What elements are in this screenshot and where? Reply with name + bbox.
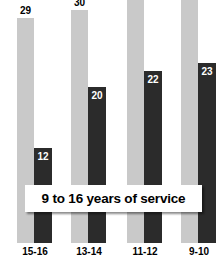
x-tick-label-13-14: 13-14 — [67, 245, 111, 258]
dark-bar[interactable] — [198, 63, 216, 243]
callout-text: 9 to 16 years of service — [42, 191, 186, 206]
callout-banner: 9 to 16 years of service — [25, 185, 202, 212]
x-tick-label-11-12: 11-12 — [123, 245, 167, 258]
dark-bar[interactable] — [88, 87, 106, 243]
light-bar-value-label: 29 — [17, 5, 34, 16]
dark-bar-value-label: 12 — [34, 151, 52, 162]
dark-bar-value-label: 22 — [144, 74, 162, 85]
dark-bar[interactable] — [144, 71, 162, 243]
x-tick-label-9-10: 9-10 — [177, 245, 221, 258]
dark-bar-value-label: 23 — [198, 66, 216, 77]
bar-chart: 29 12 30 20 22 23 9 to 16 years of servi… — [0, 0, 222, 274]
light-bar-value-label: 30 — [71, 0, 88, 8]
x-axis: 15-16 13-14 11-12 9-10 — [0, 245, 222, 261]
x-tick-label-15-16: 15-16 — [13, 245, 57, 258]
dark-bar-value-label: 20 — [88, 90, 106, 101]
